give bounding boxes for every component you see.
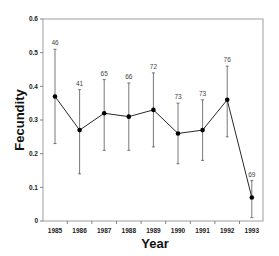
data-point-marker bbox=[53, 94, 58, 99]
y-tick-label: 0.1 bbox=[29, 184, 38, 191]
sample-size-label: 73 bbox=[199, 90, 207, 97]
sample-size-label: 46 bbox=[51, 39, 59, 46]
y-axis: 00.10.20.30.40.50.6 bbox=[29, 15, 43, 224]
y-tick-label: 0.6 bbox=[29, 15, 38, 22]
data-point-marker bbox=[176, 131, 181, 136]
data-point-marker bbox=[151, 108, 156, 113]
x-tick-label: 1993 bbox=[245, 227, 260, 234]
data-point-marker bbox=[77, 128, 82, 133]
y-tick-label: 0 bbox=[34, 217, 38, 224]
y-tick-label: 0.4 bbox=[29, 83, 38, 90]
sample-size-label: 41 bbox=[76, 80, 84, 87]
x-tick-label: 1986 bbox=[72, 227, 87, 234]
error-bars bbox=[54, 49, 254, 217]
x-tick-label: 1989 bbox=[146, 227, 161, 234]
x-tick-label: 1991 bbox=[195, 227, 210, 234]
sample-size-label: 65 bbox=[101, 70, 109, 77]
sample-size-label: 69 bbox=[248, 171, 256, 178]
x-axis-title: Year bbox=[141, 236, 168, 251]
fecundity-chart: 00.10.20.30.40.50.6 19851986198719881989… bbox=[0, 0, 279, 256]
x-tick-label: 1985 bbox=[48, 227, 63, 234]
y-axis-title: Fecundity bbox=[12, 89, 27, 151]
data-point-marker bbox=[225, 98, 230, 103]
x-tick-label: 1987 bbox=[97, 227, 112, 234]
sample-size-label: 73 bbox=[174, 93, 182, 100]
x-tick-label: 1992 bbox=[220, 227, 235, 234]
x-tick-label: 1990 bbox=[171, 227, 186, 234]
data-point-marker bbox=[127, 114, 132, 119]
y-tick-label: 0.2 bbox=[29, 150, 38, 157]
data-point-marker bbox=[200, 128, 205, 133]
y-tick-label: 0.5 bbox=[29, 49, 38, 56]
y-tick-label: 0.3 bbox=[29, 116, 38, 123]
x-axis: 198519861987198819891990199119921993 bbox=[48, 221, 260, 234]
x-tick-label: 1988 bbox=[122, 227, 137, 234]
data-point-marker bbox=[102, 111, 107, 116]
data-point-marker bbox=[250, 195, 255, 200]
sample-size-label: 66 bbox=[125, 73, 133, 80]
sample-size-label: 76 bbox=[224, 56, 232, 63]
sample-size-label: 72 bbox=[150, 63, 158, 70]
